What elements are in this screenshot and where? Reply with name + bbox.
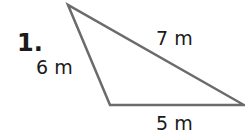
problem-number: 1. bbox=[17, 31, 43, 55]
triangle bbox=[68, 5, 244, 105]
side-label-bottom: 5 m bbox=[156, 114, 193, 133]
side-label-left: 6 m bbox=[36, 58, 73, 77]
side-label-top: 7 m bbox=[156, 29, 193, 48]
